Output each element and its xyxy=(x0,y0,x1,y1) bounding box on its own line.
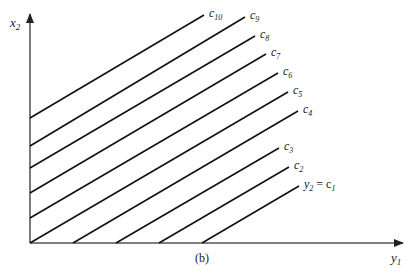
contour-line-c3 xyxy=(116,148,279,243)
contour-line-c2 xyxy=(159,167,289,243)
contour-label-c4: c4 xyxy=(303,102,312,118)
contour-labels: y2= c1c2c3c4c5c6c7c8c9c10 xyxy=(209,6,335,193)
contour-label-c10: c10 xyxy=(209,6,222,22)
contour-label-c3: c3 xyxy=(284,139,293,155)
contour-line-c1 xyxy=(202,186,299,243)
contour-line-c10 xyxy=(30,15,204,118)
contour-line-c8 xyxy=(30,36,255,168)
contour-label-c7: c7 xyxy=(271,45,281,61)
figure-caption: (b) xyxy=(195,251,209,265)
contour-label-c8: c8 xyxy=(260,27,269,43)
contour-line-c9 xyxy=(30,17,245,146)
contour-label-c9: c9 xyxy=(250,8,259,24)
contour-label-c1: y2= c1 xyxy=(303,177,335,193)
contour-line-c4 xyxy=(73,111,298,243)
contour-line-c5 xyxy=(30,92,288,243)
x-axis-label: y1 xyxy=(389,250,401,267)
contour-label-c5: c5 xyxy=(293,83,302,99)
indifference-curve-diagram: x2 y1 y2= c1c2c3c4c5c6c7c8c9c10 (b) xyxy=(0,0,417,275)
contour-label-c2: c2 xyxy=(294,158,303,174)
contour-lines xyxy=(30,15,299,243)
contour-label-c6: c6 xyxy=(283,64,292,80)
y-axis-label: x2 xyxy=(9,15,21,32)
